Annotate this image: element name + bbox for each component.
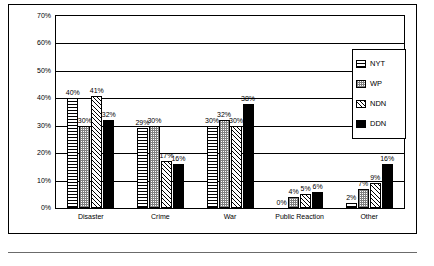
bar — [382, 164, 393, 208]
x-tick-label: War — [224, 213, 237, 220]
footer-divider — [8, 252, 417, 253]
bar-value-label: 2% — [346, 194, 356, 201]
x-axis: DisasterCrimeWarPublic ReactionOther — [55, 211, 405, 227]
x-tick-label: Other — [360, 213, 378, 220]
bar — [173, 164, 184, 208]
legend-item: WP — [356, 74, 402, 94]
y-tick-label: 40% — [37, 94, 51, 101]
bar — [231, 126, 242, 208]
bar-value-label: 6% — [313, 183, 323, 190]
bar-chart: 0%10%20%30%40%50%60%70% 40%30%41%32%29%3… — [0, 0, 434, 266]
bar — [137, 128, 148, 208]
bar-value-label: 7% — [358, 180, 368, 187]
bar — [288, 197, 299, 208]
bar — [207, 126, 218, 208]
y-axis: 0%10%20%30%40%50%60%70% — [9, 5, 55, 219]
legend-swatch-wp-icon — [356, 80, 366, 88]
bar — [346, 203, 357, 208]
bar — [358, 189, 369, 208]
bar-value-label: 16% — [380, 155, 394, 162]
bar-value-label: 41% — [90, 87, 104, 94]
x-tick-label: Public Reaction — [275, 213, 324, 220]
legend-swatch-ndn-icon — [356, 100, 366, 108]
y-tick-label: 70% — [37, 12, 51, 19]
y-tick-label: 20% — [37, 149, 51, 156]
bar — [370, 183, 381, 208]
bar — [103, 120, 114, 208]
legend-swatch-ddn-icon — [356, 120, 366, 128]
legend-label-nyt: NYT — [370, 60, 385, 68]
legend-item: DDN — [356, 114, 402, 134]
bar — [161, 161, 172, 208]
bar-value-label: 40% — [66, 89, 80, 96]
bar — [91, 96, 102, 208]
bar — [243, 104, 254, 208]
bar-value-label: 4% — [289, 188, 299, 195]
y-tick-label: 0% — [41, 204, 51, 211]
bar — [300, 194, 311, 208]
legend-label-ddn: DDN — [370, 120, 386, 128]
y-tick-label: 10% — [37, 176, 51, 183]
bar-value-label: 16% — [171, 155, 185, 162]
legend-item: NDN — [356, 94, 402, 114]
bar-value-label: 32% — [102, 111, 116, 118]
bar-value-label: 30% — [78, 117, 92, 124]
bar-value-label: 30% — [229, 117, 243, 124]
bar-value-label: 38% — [241, 95, 255, 102]
chart-frame: 0%10%20%30%40%50%60%70% 40%30%41%32%29%3… — [8, 4, 417, 234]
legend-label-wp: WP — [370, 80, 382, 88]
bar — [312, 192, 323, 208]
bar — [79, 126, 90, 208]
x-tick-label: Crime — [151, 213, 170, 220]
y-tick-label: 30% — [37, 121, 51, 128]
bar-value-label: 9% — [370, 174, 380, 181]
bar-value-label: 5% — [301, 185, 311, 192]
legend: NYT WP NDN DDN — [352, 49, 406, 139]
legend-label-ndn: NDN — [370, 100, 386, 108]
bar-value-label: 30% — [147, 117, 161, 124]
bar — [219, 120, 230, 208]
y-tick-label: 50% — [37, 66, 51, 73]
x-tick-label: Disaster — [78, 213, 104, 220]
bar — [149, 126, 160, 208]
bar-value-label: 0% — [277, 199, 287, 206]
legend-swatch-nyt-icon — [356, 60, 366, 68]
bar — [67, 98, 78, 208]
legend-item: NYT — [356, 54, 402, 74]
y-tick-label: 60% — [37, 39, 51, 46]
